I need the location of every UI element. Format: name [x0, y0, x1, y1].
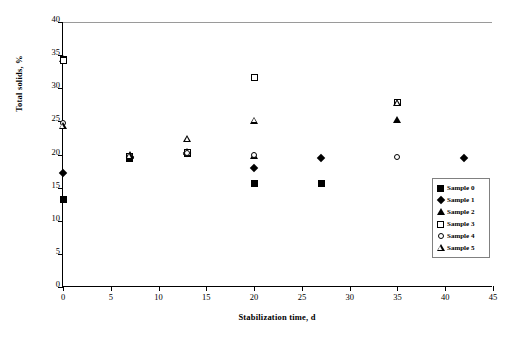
- data-point: [183, 135, 191, 142]
- x-tick-label: 20: [250, 293, 259, 302]
- legend-item-sample-1[interactable]: Sample 1: [436, 194, 486, 206]
- legend-item-sample-0[interactable]: Sample 0: [436, 182, 486, 194]
- data-point: [317, 154, 325, 162]
- y-tick-label: 0: [56, 280, 60, 289]
- x-tick-mark: [111, 286, 112, 291]
- x-tick-label: 35: [393, 293, 402, 302]
- x-tick-label: 30: [345, 293, 354, 302]
- data-point: [250, 164, 258, 172]
- legend-label: Sample 1: [447, 197, 474, 204]
- x-tick-label: 0: [61, 293, 65, 302]
- x-tick-mark: [493, 286, 494, 291]
- x-tick-mark: [159, 286, 160, 291]
- x-tick-mark: [445, 286, 446, 291]
- x-tick-label: 40: [441, 293, 450, 302]
- legend-label: Sample 3: [447, 221, 474, 228]
- filled-triangle-icon: [436, 208, 445, 217]
- data-point: [393, 99, 401, 106]
- legend-label: Sample 5: [447, 245, 474, 252]
- legend-label: Sample 4: [447, 233, 474, 240]
- x-tick-label: 25: [298, 293, 307, 302]
- x-tick-label: 10: [154, 293, 163, 302]
- x-tick-label: 15: [202, 293, 211, 302]
- data-point: [59, 122, 67, 129]
- data-point: [394, 154, 400, 160]
- y-tick-label: 10: [52, 214, 61, 223]
- x-axis-label: Stabilization time, d: [62, 312, 492, 322]
- x-tick-mark: [397, 286, 398, 291]
- x-tick-mark: [254, 286, 255, 291]
- y-axis-label: Total solids, %: [14, 55, 24, 112]
- data-point: [251, 180, 258, 187]
- chart-figure: 0510152025303540 051015202530354045 Tota…: [0, 0, 524, 350]
- data-point: [60, 196, 67, 203]
- y-tick-label: 20: [52, 148, 61, 157]
- data-point: [251, 74, 258, 81]
- legend-label: Sample 2: [447, 209, 474, 216]
- x-tick-mark: [206, 286, 207, 291]
- x-tick-mark: [63, 286, 64, 291]
- y-tick-label: 15: [52, 181, 61, 190]
- data-point: [184, 150, 190, 156]
- x-tick-mark: [350, 286, 351, 291]
- data-point: [59, 169, 67, 177]
- x-tick-label: 5: [109, 293, 113, 302]
- data-point: [393, 116, 401, 123]
- open-square-icon: [436, 220, 445, 229]
- data-point: [460, 154, 468, 162]
- filled-square-icon: [436, 184, 445, 193]
- legend-label: Sample 0: [447, 185, 474, 192]
- data-point: [60, 57, 67, 64]
- legend-item-sample-3[interactable]: Sample 3: [436, 218, 486, 230]
- x-tick-label: 45: [489, 293, 498, 302]
- plot-area: 0510152025303540 051015202530354045: [62, 22, 492, 287]
- legend-item-sample-4[interactable]: Sample 4: [436, 230, 486, 242]
- legend-item-sample-2[interactable]: Sample 2: [436, 206, 486, 218]
- y-tick-label: 40: [52, 15, 61, 24]
- x-tick-mark: [302, 286, 303, 291]
- open-triangle-icon: [436, 244, 445, 253]
- legend-item-sample-5[interactable]: Sample 5: [436, 242, 486, 254]
- filled-diamond-icon: [436, 196, 445, 205]
- y-tick-label: 30: [52, 81, 61, 90]
- data-point: [318, 180, 325, 187]
- data-point: [126, 152, 134, 159]
- open-circle-icon: [436, 232, 445, 241]
- chart-legend: Sample 0Sample 1Sample 2Sample 3Sample 4…: [432, 178, 490, 258]
- y-tick-label: 5: [56, 247, 60, 256]
- data-point: [250, 117, 258, 124]
